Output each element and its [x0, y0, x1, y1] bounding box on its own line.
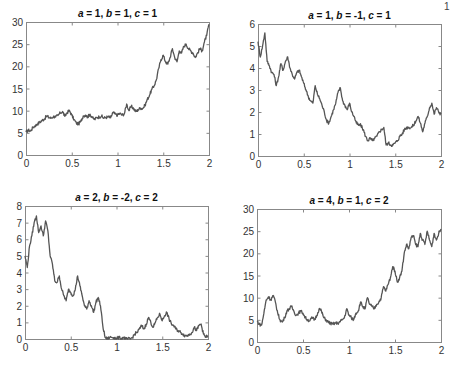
- axes-box: [258, 210, 442, 343]
- x-tick-label: 1: [347, 345, 353, 356]
- y-tick-label: 15: [243, 271, 255, 282]
- title-text: = 4,: [315, 195, 338, 206]
- clipped-edge-text: 1: [444, 1, 450, 12]
- y-tick-label: 30: [243, 204, 255, 215]
- y-tick-label: 25: [243, 226, 255, 237]
- y-tick-label: 5: [248, 315, 254, 326]
- y-tick-label: 10: [243, 293, 255, 304]
- clipped-edge-glyph: 1: [444, 0, 457, 14]
- x-tick-label: 0: [255, 345, 261, 356]
- subplot-title: a = 4, b = 1, c = 2: [309, 195, 388, 206]
- x-tick-label: 0.5: [297, 345, 311, 356]
- y-tick-label: 0: [248, 337, 254, 348]
- x-tick-label: 1.5: [389, 345, 403, 356]
- y-tick-label: 20: [243, 248, 255, 259]
- subplot-br: 00.511.52051015202530: [0, 0, 457, 366]
- title-text: = 1,: [344, 195, 367, 206]
- title-text: = 2: [372, 195, 389, 206]
- x-tick-label: 2: [439, 345, 445, 356]
